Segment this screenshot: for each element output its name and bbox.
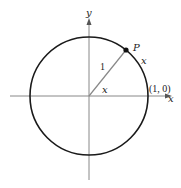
angle-label: x [102,84,108,95]
intercept-label: (1, 0) [149,83,171,95]
point-p [123,47,128,52]
arc-length-label: x [141,55,147,66]
radius-label: 1 [100,61,105,72]
point-label: P [132,42,140,53]
x-axis-label: x [168,93,174,104]
unit-circle-diagram: y x P x 1 x (1, 0) [0,0,181,188]
y-axis-arrow-icon [87,18,92,25]
y-axis-label: y [85,7,92,18]
